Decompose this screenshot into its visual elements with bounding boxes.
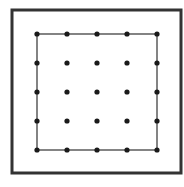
grid-dot-r0-c4 bbox=[154, 31, 159, 36]
grid-dot-r3-c2 bbox=[94, 118, 99, 123]
grid-dot-r4-c4 bbox=[154, 147, 159, 152]
grid-dot-r1-c4 bbox=[154, 60, 159, 65]
grid-dot-r0-c3 bbox=[124, 31, 129, 36]
grid-dot-r1-c1 bbox=[64, 60, 69, 65]
grid-dot-r4-c2 bbox=[94, 147, 99, 152]
grid-dot-r0-c1 bbox=[64, 31, 69, 36]
grid-dot-r3-c4 bbox=[154, 118, 159, 123]
grid-dot-r4-c1 bbox=[64, 147, 69, 152]
grid-dot-r0-c0 bbox=[34, 31, 39, 36]
grid-dot-r2-c3 bbox=[124, 89, 129, 94]
grid-dot-r1-c0 bbox=[34, 60, 39, 65]
grid-dot-r4-c3 bbox=[124, 147, 129, 152]
grid-dot-r2-c2 bbox=[94, 89, 99, 94]
grid-dot-r3-c1 bbox=[64, 118, 69, 123]
grid-dot-r0-c2 bbox=[94, 31, 99, 36]
grid-dot-r4-c0 bbox=[34, 147, 39, 152]
grid-dot-r2-c0 bbox=[34, 89, 39, 94]
dot-grid-diagram bbox=[0, 0, 184, 187]
grid-dot-r3-c3 bbox=[124, 118, 129, 123]
dot-grid bbox=[34, 31, 159, 152]
grid-dot-r2-c4 bbox=[154, 89, 159, 94]
grid-dot-r1-c3 bbox=[124, 60, 129, 65]
grid-dot-r3-c0 bbox=[34, 118, 39, 123]
grid-dot-r2-c1 bbox=[64, 89, 69, 94]
grid-dot-r1-c2 bbox=[94, 60, 99, 65]
